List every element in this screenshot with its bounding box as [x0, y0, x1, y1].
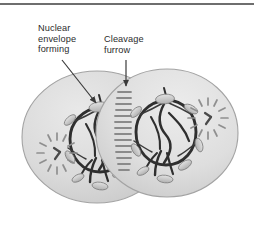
label-nuclear-envelope-forming: Nuclear envelope forming [38, 23, 100, 55]
daughter-cell-right [96, 69, 238, 197]
cell-division-figure: Nuclear envelope forming Cleavage furrow [0, 0, 254, 233]
label-cleavage-furrow: Cleavage furrow [104, 34, 160, 55]
